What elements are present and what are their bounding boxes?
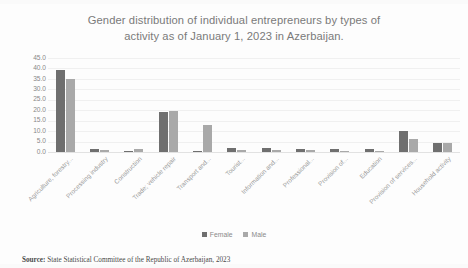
bar-female [193, 151, 202, 152]
chart-page: Gender distribution of individual entrep… [0, 0, 468, 268]
chart-title: Gender distribution of individual entrep… [34, 12, 434, 44]
y-axis-tick-label: 20.0 [33, 107, 46, 114]
bar-group [55, 58, 76, 152]
bar-female [124, 151, 133, 152]
bar-male [443, 143, 452, 152]
source-note: Source: State Statistical Committee of t… [22, 256, 230, 265]
bar-male [66, 79, 75, 152]
plot-area [48, 58, 460, 153]
chart-legend: FemaleMale [0, 231, 468, 238]
source-label: Source: [22, 256, 45, 264]
bar-group [295, 58, 316, 152]
legend-swatch-icon [202, 232, 207, 237]
bar-group [432, 58, 453, 152]
chart-title-line-2: activity as of January 1, 2023 in Azerba… [34, 28, 434, 44]
y-axis-tick-label: 5.0 [37, 138, 46, 145]
bar-female [262, 148, 271, 152]
legend-label: Male [251, 231, 266, 238]
bar-male [340, 151, 349, 152]
bar-female [433, 143, 442, 152]
bar-female [90, 149, 99, 152]
bar-male [375, 151, 384, 152]
bar-male [306, 150, 315, 152]
bar-male [100, 150, 109, 153]
legend-label: Female [210, 231, 233, 238]
bar-male [203, 125, 212, 152]
y-axis-tick-label: 45.0 [33, 55, 46, 62]
bar-female [227, 148, 236, 152]
bar-male [272, 150, 281, 152]
legend-item-female[interactable]: Female [202, 231, 233, 238]
bar-male [237, 150, 246, 153]
bar-group [158, 58, 179, 152]
legend-item-male[interactable]: Male [243, 231, 266, 238]
x-axis-category-label: Transport and... [175, 155, 212, 192]
x-axis-category-label: Education [358, 155, 383, 180]
source-text: State Statistical Committee of the Repub… [47, 256, 230, 264]
bar-group [398, 58, 419, 152]
bar-group [226, 58, 247, 152]
bar-group [89, 58, 110, 152]
legend-swatch-icon [243, 232, 248, 237]
bar-group [123, 58, 144, 152]
y-axis-tick-label: 30.0 [33, 86, 46, 93]
bar-group [364, 58, 385, 152]
plot-wrapper: 45.040.035.030.025.020.015.010.05.00.0 [0, 55, 468, 155]
y-axis-tick-label: 15.0 [33, 117, 46, 124]
y-axis-tick-label: 40.0 [33, 65, 46, 72]
x-axis-labels: Agriculture, forestry...Processing indus… [0, 155, 468, 225]
y-axis: 45.040.035.030.025.020.015.010.05.00.0 [20, 55, 46, 150]
bar-female [330, 149, 339, 152]
chart-title-line-1: Gender distribution of individual entrep… [34, 12, 434, 28]
bar-female [296, 149, 305, 152]
bar-male [409, 139, 418, 152]
x-axis-category-label: Information and... [240, 155, 280, 195]
bar-group [261, 58, 282, 152]
x-axis-category-label: Tourist... [224, 155, 246, 177]
bar-male [169, 111, 178, 152]
bar-female [56, 70, 65, 152]
x-axis-category-label: Construction [112, 155, 142, 185]
bar-female [159, 112, 168, 152]
y-axis-tick-label: 25.0 [33, 96, 46, 103]
y-axis-tick-label: 10.0 [33, 128, 46, 135]
bar-female [399, 131, 408, 152]
bar-female [365, 149, 374, 152]
x-axis-category-label: Professional... [281, 155, 315, 189]
bar-group [329, 58, 350, 152]
y-axis-tick-label: 35.0 [33, 76, 46, 83]
bar-male [134, 149, 143, 152]
x-axis-category-label: Provision of... [316, 155, 348, 187]
bar-group [192, 58, 213, 152]
